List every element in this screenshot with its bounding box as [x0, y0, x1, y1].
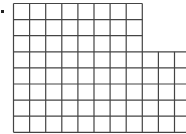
grid-diagram	[0, 0, 186, 134]
